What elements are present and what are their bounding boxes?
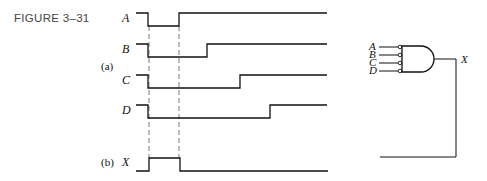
inversion-bubble-d xyxy=(398,69,402,73)
inversion-bubble-b xyxy=(398,53,402,57)
part-b-label: (b) xyxy=(101,156,114,169)
gate-output-label-x: X xyxy=(460,53,469,65)
inversion-bubble-c xyxy=(398,61,402,65)
signal-label-a: A xyxy=(121,11,130,25)
output-wire-x xyxy=(380,59,456,157)
inversion-bubble-a xyxy=(398,45,402,49)
waveform-d xyxy=(136,105,327,118)
timing-diagram-and-gate: (a) (b) A B C D X A B C D X xyxy=(0,0,487,181)
signal-label-d: D xyxy=(121,103,131,117)
part-a-label: (a) xyxy=(101,60,114,73)
and-gate-body-icon xyxy=(402,46,434,72)
waveform-x xyxy=(136,158,328,171)
output-label-x: X xyxy=(121,155,130,169)
signal-label-c: C xyxy=(122,73,131,87)
waveform-b xyxy=(136,44,327,57)
gate-input-label-d: D xyxy=(368,64,377,76)
waveform-c xyxy=(136,75,327,88)
signal-label-b: B xyxy=(122,42,130,56)
waveform-a xyxy=(136,13,327,26)
